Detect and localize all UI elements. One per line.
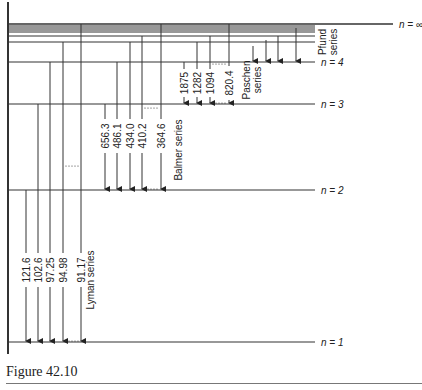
series-label: series [328, 29, 339, 56]
ellipsis-dot [147, 107, 148, 108]
transition-arrow: 102.6 [33, 104, 44, 341]
level-label: n = 1 [321, 337, 344, 348]
series-label: Paschen [241, 61, 252, 100]
ellipsis-dot [74, 165, 75, 166]
level-n-3: n = 3 [8, 99, 344, 110]
level-label: n = 4 [321, 57, 344, 68]
ellipsis-dot [150, 188, 151, 189]
energy-level-diagram: n = 1n = 2n = 3n = 4n = ∞ 121.6102.697.2… [0, 0, 422, 362]
ellipsis-dot [147, 188, 148, 189]
wavelength-label: 94.98 [58, 257, 69, 282]
level-label: n = 3 [321, 99, 344, 110]
ellipsis-dot [65, 340, 66, 341]
wavelength-label: 364.6 [156, 123, 167, 148]
ellipsis-dot [71, 165, 72, 166]
transition-arrow: 410.2 [137, 36, 148, 189]
level-n-2: n = 2 [8, 185, 344, 196]
series-label: series [252, 67, 263, 94]
ellipsis-dot [221, 63, 222, 64]
wavelength-label: 121.6 [21, 257, 32, 282]
figure-caption: Figure 42.10 [6, 364, 78, 380]
ellipsis-dot [156, 107, 157, 108]
ellipsis-dot [218, 102, 219, 103]
ellipsis-dot [150, 107, 151, 108]
wavelength-label: 486.1 [112, 123, 123, 148]
ellipsis-dot [77, 165, 78, 166]
ellipsis-dot [144, 188, 145, 189]
spectral-series: 121.6102.697.2594.9891.17Lyman series656… [21, 24, 339, 342]
ellipsis-dot [65, 165, 66, 166]
ellipsis-dot [215, 102, 216, 103]
transition-arrow: 94.98 [58, 42, 69, 341]
series-lyman-series: 121.6102.697.2594.9891.17Lyman series [21, 24, 96, 342]
wavelength-label: 1875 [179, 71, 190, 94]
wavelength-label: 1282 [192, 71, 203, 94]
energy-levels: n = 1n = 2n = 3n = 4n = ∞ [8, 19, 422, 348]
level-n-4: n = 4 [8, 57, 344, 68]
series-pfund-series: Pfundseries [253, 28, 339, 61]
wavelength-label: 410.2 [137, 123, 148, 148]
level-n-1: n = 1 [8, 337, 344, 348]
transition-arrow: 656.3 [100, 104, 111, 189]
ellipsis-dot [224, 102, 225, 103]
transition-arrow: 486.1 [112, 62, 123, 189]
ellipsis-dot [212, 63, 213, 64]
series-label: Lyman series [85, 250, 96, 309]
series-label: Pfund [317, 29, 328, 55]
wavelength-label: 1094 [205, 71, 216, 94]
transition-arrow: 1094 [205, 36, 216, 103]
ellipsis-dot [153, 107, 154, 108]
ellipsis-dot [77, 340, 78, 341]
ellipsis-dot [212, 102, 213, 103]
caption-rule [6, 383, 422, 384]
ellipsis-dot [74, 340, 75, 341]
wavelength-label: 820.4 [224, 70, 235, 95]
ellipsis-dot [153, 188, 154, 189]
ellipsis-dot [156, 188, 157, 189]
series-balmer-series: 656.3486.1434.0410.2364.6Balmer series [100, 24, 184, 190]
wavelength-label: 102.6 [33, 257, 44, 282]
series-label: Balmer series [173, 119, 184, 180]
transition-arrow: 434.0 [125, 42, 136, 189]
ellipsis-dot [71, 340, 72, 341]
wavelength-label: 434.0 [125, 123, 136, 148]
ellipsis-dot [68, 340, 69, 341]
transition-arrow: 1875 [179, 62, 190, 103]
ellipsis-dot [218, 63, 219, 64]
ellipsis-dot [221, 102, 222, 103]
level-label: n = ∞ [399, 19, 422, 30]
transition-arrow: 1282 [192, 42, 203, 103]
ellipsis-dot [215, 63, 216, 64]
wavelength-label: 97.25 [45, 257, 56, 282]
ellipsis-dot [224, 63, 225, 64]
ellipsis-dot [68, 165, 69, 166]
transition-arrow: 364.6 [156, 24, 167, 189]
transition-arrow: 121.6 [21, 190, 32, 341]
wavelength-label: 656.3 [100, 123, 111, 148]
ellipsis-dot [144, 107, 145, 108]
level-label: n = 2 [321, 185, 344, 196]
